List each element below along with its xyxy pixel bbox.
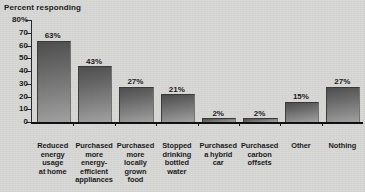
bar-value-label: 43%	[73, 57, 114, 66]
bar-value-label: 63%	[32, 31, 73, 40]
x-axis-category-label: Stoppeddrinkingbottledwater	[156, 142, 197, 176]
y-tick-mark	[26, 33, 31, 34]
x-axis-category-label: Purchasedmoreenergy-efficientappliances	[73, 142, 114, 185]
x-axis-category-label: Other	[280, 142, 321, 151]
y-tick-mark	[26, 122, 31, 123]
x-tick-mark	[322, 122, 323, 126]
bar-series: 63%43%27%21%2%2%15%27%	[32, 20, 363, 122]
bar[interactable]	[285, 102, 319, 122]
category-label-line: car	[198, 159, 239, 168]
y-tick-mark	[26, 109, 31, 110]
x-axis-category-label: Nothing	[322, 142, 363, 151]
bar-value-label: 15%	[280, 92, 321, 101]
bar[interactable]	[119, 87, 153, 122]
category-label-line: offsets	[239, 159, 280, 168]
x-tick-mark	[115, 122, 116, 126]
category-label-line: food	[115, 176, 156, 185]
bar[interactable]	[161, 94, 195, 122]
bar-slot: 21%	[156, 20, 197, 122]
category-label-line: water	[156, 168, 197, 177]
bar-slot: 15%	[280, 20, 321, 122]
chart-title: Percent responding	[4, 3, 81, 12]
bar-slot: 27%	[322, 20, 363, 122]
y-tick-mark	[26, 71, 31, 72]
x-tick-mark	[280, 122, 281, 126]
y-axis: 80%706050403020100	[0, 15, 30, 123]
bar[interactable]	[326, 87, 360, 122]
category-label-line: Other	[280, 142, 321, 151]
category-label-line: appliances	[73, 176, 114, 185]
x-axis-category-labels: Reducedenergyusageat homePurchasedmoreen…	[32, 142, 363, 192]
x-tick-mark	[156, 122, 157, 126]
y-tick-mark	[26, 20, 31, 21]
x-tick-mark	[239, 122, 240, 126]
bar-slot: 2%	[239, 20, 280, 122]
category-label-line: Nothing	[322, 142, 363, 151]
y-tick-mark	[26, 84, 31, 85]
y-tick-mark	[26, 58, 31, 59]
bar[interactable]	[243, 118, 277, 122]
y-tick-mark	[26, 46, 31, 47]
x-tick-mark	[198, 122, 199, 126]
y-tick-mark	[26, 97, 31, 98]
bar-slot: 63%	[32, 20, 73, 122]
bar-value-label: 2%	[239, 109, 280, 118]
bar-slot: 2%	[198, 20, 239, 122]
x-axis-category-label: Purchasedcarbonoffsets	[239, 142, 280, 168]
bar[interactable]	[78, 66, 112, 122]
bar-slot: 43%	[73, 20, 114, 122]
bar[interactable]	[202, 118, 236, 122]
x-axis-category-label: Reducedenergyusageat home	[32, 142, 73, 176]
source-note-cropped	[4, 186, 304, 192]
x-axis-category-label: Purchasedmorelocallygrownfood	[115, 142, 156, 185]
bar-value-label: 27%	[322, 77, 363, 86]
category-label-line: at home	[32, 168, 73, 177]
bar[interactable]	[37, 41, 71, 122]
bar-slot: 27%	[115, 20, 156, 122]
bar-value-label: 21%	[156, 85, 197, 94]
bar-value-label: 27%	[115, 77, 156, 86]
plot-area: 80%706050403020100 63%43%27%21%2%2%15%27…	[0, 15, 365, 125]
bar-value-label: 2%	[198, 109, 239, 118]
x-tick-mark	[73, 122, 74, 126]
x-axis-category-label: Purchaseda hybridcar	[198, 142, 239, 168]
